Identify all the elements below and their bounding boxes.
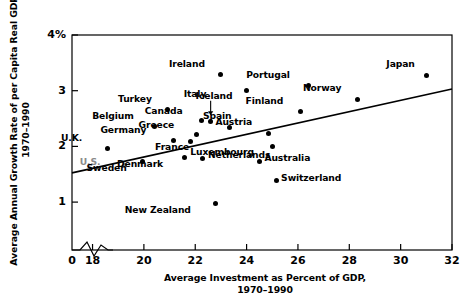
x-tick-label: 20 xyxy=(131,254,157,267)
x-axis-origin-label: 0 xyxy=(59,254,85,267)
data-point-label: Japan xyxy=(386,58,414,69)
data-point[interactable] xyxy=(218,72,223,77)
data-point[interactable] xyxy=(424,73,429,78)
x-tick-label: 32 xyxy=(439,254,465,267)
data-point-label: Turkey xyxy=(118,93,152,104)
chart-overlay: 182022242628303201234%U.K.U.S.SwedenBelg… xyxy=(0,0,466,308)
data-point-label: New Zealand xyxy=(125,204,191,215)
data-point-label: Norway xyxy=(303,82,341,93)
data-point-label: France xyxy=(155,141,189,152)
data-point-label: Luxembourg xyxy=(190,146,254,157)
data-point[interactable] xyxy=(266,131,271,136)
data-point[interactable] xyxy=(270,144,275,149)
x-tick-label: 28 xyxy=(336,254,362,267)
data-point[interactable] xyxy=(105,146,110,151)
x-tick-label: 30 xyxy=(388,254,414,267)
x-tick-label: 24 xyxy=(234,254,260,267)
data-point[interactable] xyxy=(298,109,303,114)
data-point[interactable] xyxy=(257,159,262,164)
data-point-label: Denmark xyxy=(117,158,163,169)
y-tick-label: 4% xyxy=(40,28,66,41)
data-point-label: Ireland xyxy=(169,58,205,69)
data-point-label: Portugal xyxy=(246,69,290,80)
data-point[interactable] xyxy=(355,97,360,102)
x-tick-label: 26 xyxy=(285,254,311,267)
x-tick-label: 22 xyxy=(182,254,208,267)
data-point[interactable] xyxy=(274,178,279,183)
y-tick-label: 1 xyxy=(40,195,66,208)
y-tick-label: 3 xyxy=(40,84,66,97)
data-point-label: Australia xyxy=(264,152,310,163)
data-point-label: Canada xyxy=(145,105,183,116)
data-point-label: U.K. xyxy=(61,132,82,143)
data-point-label: Greece xyxy=(139,119,175,130)
data-point-label: Belgium xyxy=(92,110,134,121)
data-point[interactable] xyxy=(194,132,199,137)
data-point-label: Finland xyxy=(246,95,284,106)
data-point[interactable] xyxy=(244,88,249,93)
data-point-label: Austria xyxy=(215,116,252,127)
data-point-label: Switzerland xyxy=(281,172,341,183)
data-point-label: Iceland xyxy=(196,90,233,101)
data-point[interactable] xyxy=(213,201,218,206)
data-point[interactable] xyxy=(182,155,187,160)
scatter-chart: Average Annual Growth Rate of per Capita… xyxy=(0,0,466,308)
